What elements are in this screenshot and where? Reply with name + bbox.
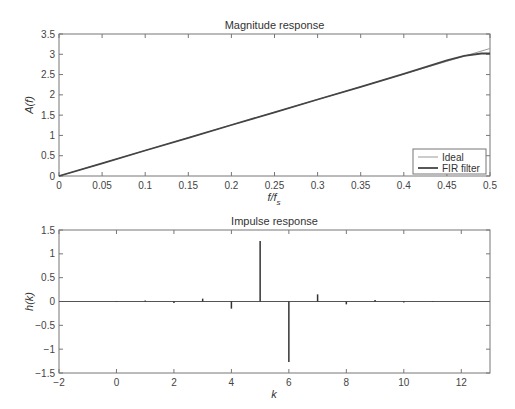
legend: IdealFIR filter [413,149,486,174]
x-tick-label: 0.4 [397,180,411,191]
legend-label: Ideal [442,152,464,163]
legend-label: FIR filter [442,163,480,174]
y-axis-label: h(k) [23,292,35,311]
x-tick-label: 0 [56,180,62,191]
y-tick-label: 1.5 [41,110,55,121]
y-tick-label: 1 [49,248,55,259]
y-tick-label: 0.5 [41,150,55,161]
y-tick-label: 3.5 [41,29,55,40]
chart-title: Magnitude response [225,19,325,31]
y-tick-label: 0 [49,296,55,307]
x-tick-label: 0.25 [265,180,285,191]
y-tick-label: 0.5 [41,272,55,283]
x-tick-label: 0.2 [224,180,238,191]
y-tick-label: 0 [49,171,55,182]
chart-title: Impulse response [231,215,318,227]
y-tick-label: −1.5 [35,368,55,379]
y-tick-label: 3 [49,49,55,60]
x-axis-label: k [271,388,277,400]
x-tick-label: 0.3 [311,180,325,191]
x-tick-label: 12 [456,377,468,388]
x-axis-label: f/fs [267,191,280,207]
x-tick-label: −2 [53,377,65,388]
y-tick-label: 2.5 [41,69,55,80]
x-tick-label: 0.5 [483,180,497,191]
x-tick-label: 0 [114,377,120,388]
x-tick-label: 6 [286,377,292,388]
x-tick-label: 0.1 [138,180,152,191]
impulse-response-axes: −2024681012−1.5−1−0.500.511.5Impulse res… [23,215,490,400]
x-tick-label: 0.45 [437,180,457,191]
x-tick-label: 2 [171,377,177,388]
y-tick-label: 1.5 [41,225,55,236]
magnitude-response-axes: 00.050.10.150.20.250.30.350.40.450.500.5… [23,19,497,207]
y-tick-label: −0.5 [35,320,55,331]
y-tick-label: 2 [49,89,55,100]
x-tick-label: 0.15 [179,180,199,191]
x-tick-label: 8 [344,377,350,388]
x-tick-label: 0.05 [92,180,112,191]
x-tick-label: 10 [398,377,410,388]
x-tick-label: 4 [229,377,235,388]
figure: 00.050.10.150.20.250.30.350.40.450.500.5… [0,0,515,409]
y-tick-label: 1 [49,130,55,141]
y-axis-label: A(f) [23,96,35,115]
x-tick-label: 0.35 [351,180,371,191]
y-tick-label: −1 [44,344,56,355]
